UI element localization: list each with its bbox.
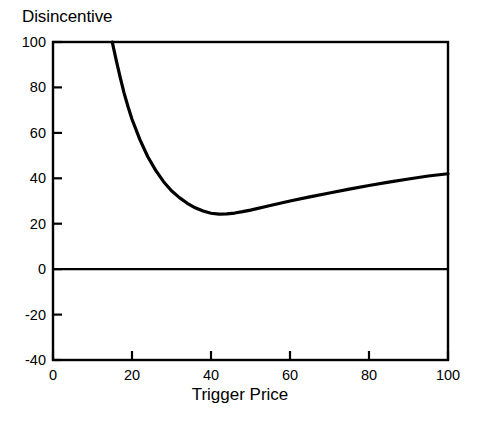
x-tick-label: 100 [436, 367, 460, 383]
chart-figure: Disincentive 100 80 60 [0, 0, 480, 425]
y-tick-labels: 100 80 60 40 20 0 -20 -40 [22, 34, 46, 368]
x-axis-title: Trigger Price [0, 385, 480, 405]
y-tick-label: -20 [25, 307, 46, 323]
y-tick-label: -40 [25, 352, 46, 368]
x-tick-label: 0 [49, 367, 57, 383]
x-tick-label: 80 [361, 367, 377, 383]
x-tick-label: 40 [203, 367, 219, 383]
plot-frame [53, 42, 448, 360]
y-tick-label: 80 [30, 79, 46, 95]
y-tick-label: 40 [30, 170, 46, 186]
x-tick-label: 20 [124, 367, 140, 383]
y-tick-label: 60 [30, 125, 46, 141]
x-tick-label: 60 [282, 367, 298, 383]
plot-area: 100 80 60 40 20 0 -20 -40 0 20 40 60 80 … [0, 0, 480, 425]
y-tick-label: 20 [30, 216, 46, 232]
x-tick-labels: 0 20 40 60 80 100 [49, 367, 460, 383]
y-tick-label: 100 [22, 34, 46, 50]
y-tick-label: 0 [38, 261, 46, 277]
